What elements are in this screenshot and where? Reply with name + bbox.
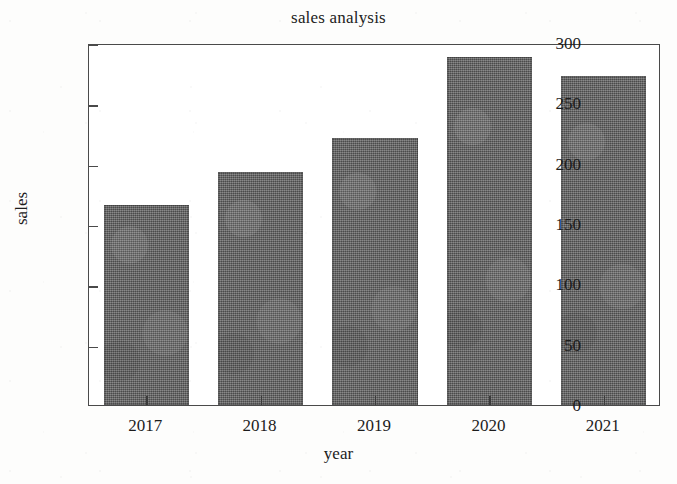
x-tick-mark <box>375 396 376 405</box>
x-tick-mark <box>146 396 147 405</box>
bar-texture <box>447 57 532 405</box>
x-tick-label-2021: 2021 <box>586 416 620 436</box>
y-tick-label-150: 150 <box>556 215 582 235</box>
x-axis-title: year <box>0 444 677 464</box>
y-tick-mark <box>89 286 98 287</box>
x-tick-label-2017: 2017 <box>128 416 162 436</box>
y-tick-label-250: 250 <box>556 94 582 114</box>
x-tick-label-2018: 2018 <box>243 416 277 436</box>
bar-2019 <box>332 138 417 405</box>
y-tick-label-0: 0 <box>573 396 582 416</box>
y-tick-mark <box>89 105 98 106</box>
y-tick-label-50: 50 <box>564 336 581 356</box>
bar-texture <box>104 205 189 405</box>
x-tick-mark <box>604 396 605 405</box>
y-tick-label-100: 100 <box>556 275 582 295</box>
y-tick-mark <box>89 45 98 46</box>
x-tick-label-2020: 2020 <box>471 416 505 436</box>
x-tick-mark <box>489 396 490 405</box>
y-tick-mark <box>89 347 98 348</box>
x-tick-mark <box>261 396 262 405</box>
y-tick-label-200: 200 <box>556 155 582 175</box>
bar-2017 <box>104 205 189 405</box>
bar-2018 <box>218 172 303 405</box>
bar-chart-figure: sales analysis sales year 05010015020025… <box>0 0 677 484</box>
bar-texture <box>332 138 417 405</box>
x-tick-label-2019: 2019 <box>357 416 391 436</box>
y-axis-title: sales <box>12 192 32 225</box>
y-tick-mark <box>89 226 98 227</box>
y-tick-mark <box>89 166 98 167</box>
chart-title: sales analysis <box>0 8 677 28</box>
y-tick-label-300: 300 <box>556 34 582 54</box>
bar-texture <box>218 172 303 405</box>
bar-2020 <box>447 57 532 405</box>
